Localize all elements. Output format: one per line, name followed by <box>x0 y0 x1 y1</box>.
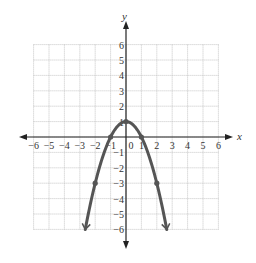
x-axis-right-arrow-icon <box>225 134 233 140</box>
x-tick-label: 5 <box>201 140 206 151</box>
y-tick-label: 6 <box>119 40 124 51</box>
y-tick-label: 4 <box>119 70 124 81</box>
x-tick-label: −4 <box>59 140 70 151</box>
parabola-graph: −6−5−4−3−2−10123456654321−1−2−3−4−5−6 x … <box>0 0 256 263</box>
x-tick-label: 0 <box>129 140 134 151</box>
x-tick-label: 3 <box>170 140 175 151</box>
y-tick-label: −5 <box>113 209 124 220</box>
x-tick-label: −6 <box>28 140 39 151</box>
y-tick-label: −1 <box>113 147 124 158</box>
curve-point <box>93 181 98 186</box>
x-tick-label: 4 <box>185 140 190 151</box>
x-tick-label: 6 <box>216 140 221 151</box>
x-tick-label: 2 <box>154 140 159 151</box>
y-tick-label: −3 <box>113 178 124 189</box>
axes <box>19 21 233 249</box>
x-tick-label: −3 <box>74 140 85 151</box>
x-axis-label: x <box>236 130 242 142</box>
y-axis-label: y <box>121 10 127 22</box>
curve-point <box>123 119 128 124</box>
x-tick-label: −5 <box>44 140 55 151</box>
curve-point <box>154 181 159 186</box>
y-axis-up-arrow-icon <box>123 21 129 29</box>
y-tick-label: −4 <box>113 194 124 205</box>
curve-point <box>139 134 144 139</box>
y-tick-label: 5 <box>119 55 124 66</box>
y-tick-label: 2 <box>119 101 124 112</box>
y-axis-down-arrow-icon <box>123 241 129 249</box>
y-tick-label: 3 <box>119 86 124 97</box>
x-tick-label: −2 <box>90 140 101 151</box>
y-tick-label: −6 <box>113 224 124 235</box>
y-tick-label: −2 <box>113 163 124 174</box>
x-axis-left-arrow-icon <box>19 134 27 140</box>
curve-point <box>108 134 113 139</box>
